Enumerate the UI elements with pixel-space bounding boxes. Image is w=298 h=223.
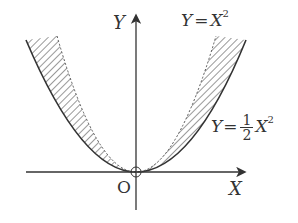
label-y-equals-half-x-squared: Y=12X2	[211, 113, 274, 142]
hatched-region-left	[26, 36, 136, 172]
parabola-diagram: Y X O Y=X2 Y=12X2	[0, 0, 298, 223]
diagram-canvas	[0, 0, 298, 223]
fraction-one-half: 12	[240, 113, 253, 142]
x-axis-label: X	[229, 178, 242, 199]
label-y-equals-x-squared: Y=X2	[181, 10, 229, 30]
hatched-region-right	[136, 36, 246, 172]
origin-label: O	[117, 177, 131, 197]
y-axis-label: Y	[113, 12, 125, 33]
